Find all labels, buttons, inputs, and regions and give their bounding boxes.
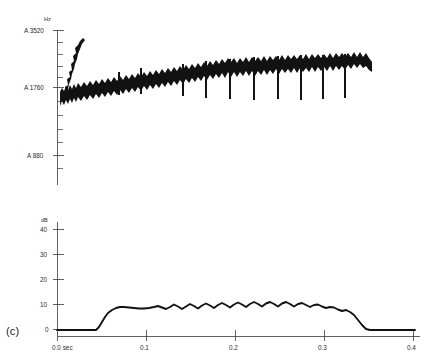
pitch-spike: [253, 57, 255, 100]
pitch-spike: [205, 61, 207, 98]
time-tick-label: 0.1: [140, 344, 149, 351]
pitch-tick-label: A 880: [27, 152, 44, 159]
time-tick-label: 0.4: [407, 344, 416, 351]
pitch-spike: [118, 72, 120, 95]
pitch-spike: [277, 56, 279, 99]
time-axis-group: 0.0 sec 0.1 0.2 0.3 0.4: [52, 330, 420, 351]
time-tick-label: 0.2: [229, 344, 238, 351]
pitch-axis-group: Hz A 3520 A 1760 A 880: [24, 16, 64, 185]
pitch-tick-label: A 1760: [24, 84, 44, 91]
pitch-axis-unit: Hz: [44, 16, 51, 22]
pitch-trace-group: [60, 38, 372, 106]
pitch-spike: [300, 55, 302, 100]
pitch-tick-label: A 3520: [24, 27, 44, 34]
amp-tick-label: 40: [40, 226, 48, 233]
amplitude-axis-group: dB 40 30 20 10 0: [40, 217, 64, 333]
amp-tick-label: 10: [40, 301, 48, 308]
amplitude-envelope-curve: [57, 302, 415, 330]
pitch-spike: [229, 59, 231, 99]
speech-analysis-figure: (c) Hz A 3520 A 1760 A 880: [0, 0, 445, 364]
pitch-spike: [344, 54, 346, 98]
amp-tick-label: 0: [45, 326, 49, 333]
amp-tick-label: 20: [40, 276, 48, 283]
time-tick-label-origin: 0.0 sec: [52, 344, 73, 351]
pitch-spike: [182, 64, 184, 96]
pitch-steady-band: [60, 52, 372, 106]
amplitude-axis-unit: dB: [41, 217, 48, 223]
time-tick-label: 0.3: [318, 344, 327, 351]
pitch-spike: [140, 68, 142, 94]
plot-canvas: Hz A 3520 A 1760 A 880: [0, 0, 445, 364]
amp-tick-label: 30: [40, 251, 48, 258]
pitch-spike: [322, 55, 324, 99]
